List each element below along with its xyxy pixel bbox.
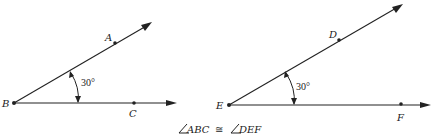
arrowhead-ray-ba [141,22,152,31]
label-c: C [129,108,137,119]
angle-def-figure: E D F 30° [215,4,431,123]
caption-left-angle: ABC [186,124,210,135]
arc-arrowhead-bottom [291,98,297,105]
ray-ed [229,7,398,105]
label-d: D [328,29,337,40]
caption-right-angle: DEF [238,124,262,135]
congruence-caption: ABC ≅ DEF [179,124,262,135]
arrowhead-ray-ef [420,102,431,108]
point-e [227,103,231,107]
arc-arrowhead-bottom [75,96,81,103]
arrowhead-ray-ed [392,4,403,13]
congruent-symbol: ≅ [215,124,223,135]
angle-abc-figure: B A C 30° [1,22,177,119]
point-f [399,102,403,106]
label-a: A [104,32,112,43]
label-e: E [215,100,224,111]
point-d [337,38,341,42]
point-b [12,101,16,105]
point-a [113,41,117,45]
arrowhead-ray-bc [166,100,177,106]
angle-measure-def: 30° [296,81,310,92]
label-f: F [396,112,405,123]
point-c [132,101,136,105]
ray-ba [14,25,148,103]
label-b: B [1,98,9,109]
angle-measure-abc: 30° [81,77,95,88]
congruent-angles-diagram: B A C 30° E D F 30° ABC ≅ DEF [0,0,434,139]
